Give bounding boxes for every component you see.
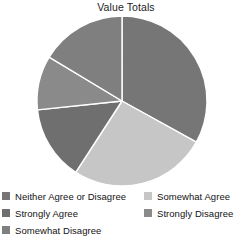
legend-item-somewhat-disagree[interactable]: Somewhat Disagree: [2, 222, 144, 238]
legend-item-label: Somewhat Disagree: [15, 225, 101, 236]
pie-slice-group: [37, 16, 207, 186]
legend-item-neither-agree-or-disagree[interactable]: Neither Agree or Disagree: [2, 188, 144, 204]
legend-item-label: Neither Agree or Disagree: [15, 191, 126, 202]
legend-swatch-icon: [144, 192, 152, 200]
pie-chart-figure: Value Totals Neither Agree or Disagree S…: [0, 0, 252, 248]
legend-item-strongly-disagree[interactable]: Strongly Disagree: [144, 205, 252, 221]
legend-item-label: Somewhat Agree: [157, 191, 230, 202]
legend-item-label: Strongly Agree: [15, 208, 78, 219]
legend-swatch-icon: [2, 192, 10, 200]
legend-swatch-icon: [2, 226, 10, 234]
pie-chart-svg: [0, 0, 252, 190]
legend-column-left: Neither Agree or Disagree Strongly Agree…: [2, 188, 144, 239]
chart-legend: Neither Agree or Disagree Strongly Agree…: [0, 188, 252, 248]
legend-column-right: Somewhat Agree Strongly Disagree: [144, 188, 252, 222]
legend-item-label: Strongly Disagree: [157, 208, 233, 219]
legend-item-somewhat-agree[interactable]: Somewhat Agree: [144, 188, 252, 204]
legend-item-strongly-agree[interactable]: Strongly Agree: [2, 205, 144, 221]
legend-swatch-icon: [2, 209, 10, 217]
legend-swatch-icon: [144, 209, 152, 217]
